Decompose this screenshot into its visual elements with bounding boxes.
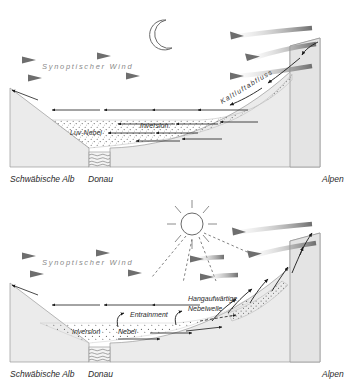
moon-icon: [150, 20, 172, 50]
upslope-fog-wave-label-line1: Hangaufwärtige: [188, 295, 237, 303]
synoptic-wind-arrows-day: [22, 224, 316, 281]
ground-label-donau-night: Donau: [88, 174, 113, 184]
ground-label-donau-day: Donau: [88, 369, 113, 379]
fog-development-diagram: Synoptischer Wind Kaltluftabfluss Luv-Ne…: [0, 0, 362, 390]
synoptic-wind-label-night: Synoptischer Wind: [42, 62, 133, 71]
inversion-label-night: Inversion: [140, 122, 169, 129]
donau-river-day: [89, 347, 110, 362]
upwind-fog-label: Luv-Nebel: [70, 129, 102, 136]
fog-label: Nebel: [118, 328, 137, 335]
synoptic-wind-label-day: Synoptischer Wind: [42, 258, 133, 267]
ground-label-alpen-day: Alpen: [321, 369, 344, 379]
ground-label-schwaebische-alb-night: Schwäbische Alb: [10, 174, 75, 184]
sun-icon: [167, 200, 217, 249]
night-panel: Synoptischer Wind Kaltluftabfluss Luv-Ne…: [0, 0, 362, 195]
schwaebische-alb-terrain-day: [10, 283, 89, 362]
day-panel: Synoptischer Wind Hangaufwärtige Nebelwe…: [0, 195, 362, 390]
ground-label-schwaebische-alb-day: Schwäbische Alb: [10, 369, 75, 379]
alpen-massif: [290, 38, 320, 167]
inversion-label-day: Inversion: [72, 328, 101, 335]
entrainment-label: Entrainment: [130, 311, 169, 318]
upslope-fog-wave-label-line2: Nebelwelle: [188, 305, 222, 312]
ground-label-alpen-night: Alpen: [321, 174, 344, 184]
alpen-massif-day: [290, 233, 320, 362]
donau-river: [89, 152, 110, 167]
